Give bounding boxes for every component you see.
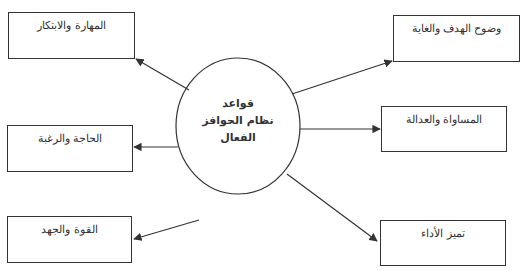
node-label: تميز الأداء (381, 227, 505, 240)
node-label: الحاجة والرغبة (8, 132, 132, 145)
node-label: وضوح الهدف والغاية (394, 22, 519, 35)
node-label: المهارة والابتكار (9, 19, 134, 32)
node-strength-effort: القوة والجهد (7, 216, 132, 263)
center-title-line2: نظام الحوافز (190, 112, 286, 129)
arrow-to-top-left (136, 59, 189, 90)
node-need-desire: الحاجة والرغبة (7, 125, 133, 172)
arrow-to-bottom-right (287, 174, 377, 241)
node-label: القوة والجهد (8, 223, 131, 236)
node-label: المساواة والعدالة (382, 113, 506, 126)
center-title-line1: قواعد (190, 95, 286, 112)
arrow-to-bottom-left (134, 220, 199, 239)
node-performance-excellence: تميز الأداء (380, 220, 506, 266)
node-skill-innovation: المهارة والابتكار (8, 12, 135, 59)
center-title-line3: الفعال (190, 129, 286, 146)
node-goal-clarity: وضوح الهدف والغاية (393, 15, 520, 62)
node-equality-justice: المساواة والعدالة (381, 106, 507, 152)
center-title: قواعد نظام الحوافز الفعال (190, 95, 286, 146)
arrow-to-top-right (292, 61, 392, 94)
